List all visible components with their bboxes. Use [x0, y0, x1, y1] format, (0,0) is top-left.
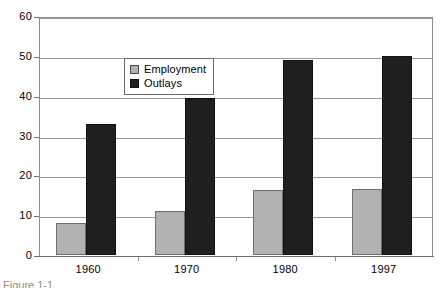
x-tick-label-1980: 1980: [255, 263, 315, 275]
bar-outlays-1997: [382, 56, 412, 255]
y-axis-tick-labels: 0102030405060: [0, 0, 32, 288]
bar-employment-1980: [253, 190, 283, 255]
legend-label-outlays: Outlays: [144, 77, 182, 89]
plot-area: Employment Outlays: [39, 17, 433, 257]
bar-employment-1997: [352, 189, 382, 255]
y-tick-label-10: 10: [4, 210, 32, 221]
x-tick-label-1970: 1970: [157, 263, 217, 275]
legend-swatch-outlays: [130, 79, 139, 88]
y-tick-mark-30: [34, 137, 39, 138]
y-tick-label-50: 50: [4, 51, 32, 62]
x-tick-label-1997: 1997: [354, 263, 414, 275]
y-tick-label-60: 60: [4, 11, 32, 22]
bar-outlays-1980: [283, 60, 313, 255]
legend-swatch-employment: [130, 65, 139, 74]
y-tick-mark-60: [34, 17, 39, 18]
bar-outlays-1960: [86, 124, 116, 255]
x-tick-mark-2: [236, 257, 237, 261]
chart-legend: Employment Outlays: [124, 58, 214, 95]
x-tick-mark-3: [335, 257, 336, 261]
x-tick-mark-1: [138, 257, 139, 261]
legend-label-employment: Employment: [144, 63, 206, 75]
y-tick-label-40: 40: [4, 91, 32, 102]
legend-item-outlays: Outlays: [130, 76, 206, 90]
gridline-50: [40, 58, 432, 59]
gridline-60: [40, 18, 432, 19]
bar-outlays-1970: [185, 98, 215, 255]
y-axis-line: [39, 17, 40, 257]
y-tick-mark-0: [34, 256, 39, 257]
y-tick-mark-10: [34, 216, 39, 217]
y-tick-label-0: 0: [4, 250, 32, 261]
bar-chart-figure: Employment Outlays 0102030405060 1960197…: [0, 0, 446, 288]
x-tick-label-1960: 1960: [58, 263, 118, 275]
legend-item-employment: Employment: [130, 62, 206, 76]
figure-caption: Figure 1-1: [3, 279, 53, 288]
y-tick-mark-50: [34, 57, 39, 58]
y-tick-mark-40: [34, 97, 39, 98]
y-tick-label-20: 20: [4, 170, 32, 181]
bar-employment-1960: [56, 223, 86, 255]
y-tick-label-30: 30: [4, 131, 32, 142]
gridline-40: [40, 98, 432, 99]
y-tick-mark-20: [34, 176, 39, 177]
bar-employment-1970: [155, 211, 185, 255]
